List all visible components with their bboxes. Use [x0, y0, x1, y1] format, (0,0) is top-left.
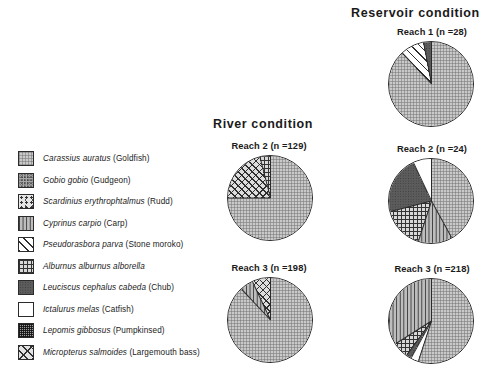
legend-item-label: Lepomis gibbosus (Pumpkinsed): [43, 326, 165, 335]
chart-title-reservoir-reach3: Reach 3 (n =218): [372, 264, 492, 274]
legend-item: Lepomis gibbosus (Pumpkinsed): [18, 320, 233, 342]
chart-title-reservoir-reach2: Reach 2 (n =24): [372, 144, 492, 154]
chart-title-reservoir-reach1: Reach 1 (n =28): [372, 27, 492, 37]
legend-swatch-xdiag-icon: [18, 345, 34, 360]
species-legend: Carassius auratus (Goldfish)Gobio gobio …: [18, 148, 233, 363]
legend-swatch-grid-icon: [18, 259, 34, 274]
legend-item-label: Carassius auratus (Goldfish): [43, 154, 150, 163]
pie-chart-reservoir-reach1: [388, 41, 474, 127]
chart-title-river-reach3: Reach 3 (n =198): [209, 263, 329, 273]
legend-item: Alburnus alburnus alborella: [18, 256, 233, 278]
legend-item: Micropterus salmoides (Largemouth bass): [18, 342, 233, 364]
legend-item: Gobio gobio (Gudgeon): [18, 170, 233, 192]
legend-swatch-white-icon: [18, 302, 34, 317]
figure-canvas: Carassius auratus (Goldfish)Gobio gobio …: [0, 0, 493, 391]
legend-item-label: Leuciscus cephalus cabeda (Chub): [43, 283, 174, 292]
legend-swatch-dark-icon: [18, 280, 34, 295]
legend-swatch-dot-icon: [18, 151, 34, 166]
legend-item-label: Alburnus alburnus alborella: [43, 262, 145, 271]
legend-swatch-vert-icon: [18, 216, 34, 231]
pie-chart-river-reach2: [227, 155, 313, 241]
legend-item-label: Pseudorasbora parva (Stone moroko): [43, 240, 183, 249]
legend-item: Cyprinus carpio (Carp): [18, 213, 233, 235]
pie-chart-reservoir-reach2: [388, 158, 474, 244]
legend-item-label: Micropterus salmoides (Largemouth bass): [43, 348, 200, 357]
legend-swatch-fine-icon: [18, 323, 34, 338]
chart-title-river-reach2: Reach 2 (n =129): [209, 141, 329, 151]
legend-item: Carassius auratus (Goldfish): [18, 148, 233, 170]
legend-item-label: Ictalurus melas (Catfish): [43, 305, 134, 314]
pie-chart-reservoir-reach3: [388, 278, 474, 364]
legend-item: Pseudorasbora parva (Stone moroko): [18, 234, 233, 256]
legend-item: Leuciscus cephalus cabeda (Chub): [18, 277, 233, 299]
panel-title-reservoir: Reservoir condition: [351, 6, 480, 20]
legend-swatch-noise-icon: [18, 173, 34, 188]
legend-swatch-scatter-icon: [18, 194, 34, 209]
legend-item-label: Gobio gobio (Gudgeon): [43, 176, 131, 185]
legend-item-label: Scardinius erythrophtalmus (Rudd): [43, 197, 173, 206]
legend-item: Ictalurus melas (Catfish): [18, 299, 233, 321]
legend-swatch-diag-icon: [18, 237, 34, 252]
panel-title-river: River condition: [213, 117, 313, 131]
pie-chart-river-reach3: [227, 277, 313, 363]
legend-item: Scardinius erythrophtalmus (Rudd): [18, 191, 233, 213]
legend-item-label: Cyprinus carpio (Carp): [43, 219, 128, 228]
